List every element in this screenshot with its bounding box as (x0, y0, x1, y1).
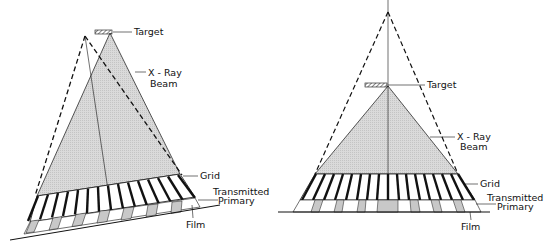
target-right (365, 83, 387, 87)
label-film-left: Film (186, 220, 205, 230)
right-figure (278, 0, 496, 220)
label-xray-left-1: X - Ray (148, 68, 182, 78)
label-target-left: Target (134, 27, 163, 37)
label-film-right: Film (461, 222, 480, 232)
label-target-right: Target (427, 80, 456, 90)
diagram-canvas (0, 0, 546, 249)
label-xray-left-2: Beam (150, 79, 177, 89)
left-figure (10, 30, 220, 240)
xray-beam-left (37, 33, 180, 196)
target-left (95, 30, 112, 34)
xray-beam-right (315, 86, 458, 174)
label-xray-right-2: Beam (460, 142, 487, 152)
label-grid-left: Grid (200, 171, 220, 181)
label-transmitted-right-2: Primary (497, 202, 534, 212)
label-grid-right: Grid (480, 179, 500, 189)
label-transmitted-left-2: Primary (218, 196, 255, 206)
